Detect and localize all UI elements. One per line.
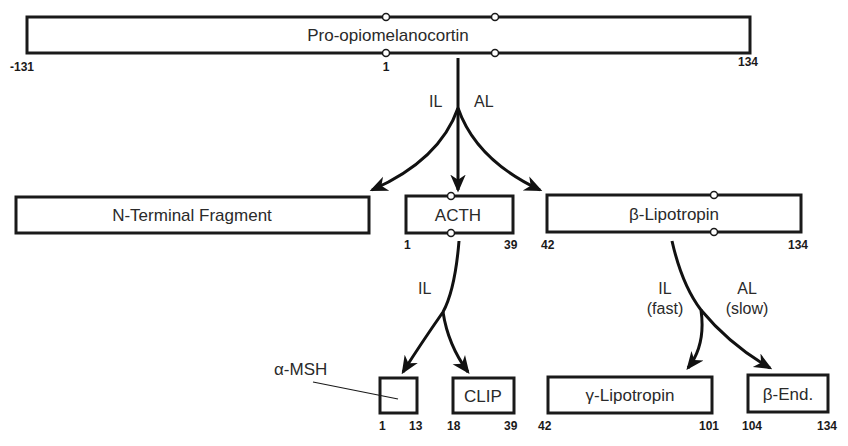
cleavage-site-marker (383, 14, 390, 21)
pomc-label: Pro-opiomelanocortin (307, 26, 469, 45)
arrow-to-beta-endorphin (701, 310, 770, 368)
n-terminal-label: N-Terminal Fragment (112, 206, 272, 225)
lpt-il-label: IL (658, 280, 671, 297)
alpha-msh: α-MSH 1 13 (274, 360, 423, 433)
acth-start-number: 1 (404, 238, 411, 252)
clip-label: CLIP (464, 387, 502, 406)
cleavage-site-marker (711, 192, 718, 199)
arrow-to-n-terminal (372, 108, 458, 190)
pomc-start-number: -131 (10, 60, 34, 74)
clip-end-number: 39 (504, 419, 518, 433)
lpt-slow-label: (slow) (726, 300, 769, 317)
beta-endorphin-label: β-End. (763, 385, 813, 404)
cleavage-site-marker (492, 14, 499, 21)
acth-end-number: 39 (504, 238, 518, 252)
cleavage-site-marker (448, 193, 455, 200)
beta-lipotropin-start-number: 42 (541, 238, 555, 252)
precursor-pomc: Pro-opiomelanocortin -131 1 134 (10, 14, 758, 75)
cleavage-site-marker (492, 50, 499, 57)
level1-arrows: IL AL (372, 58, 540, 190)
cleavage-site-marker (711, 229, 718, 236)
alpha-msh-start-number: 1 (379, 419, 386, 433)
alpha-msh-label: α-MSH (274, 360, 327, 379)
arrow-to-alpha-msh (403, 241, 459, 372)
beta-lipotropin: β-Lipotropin 42 134 (541, 192, 808, 253)
beta-lipotropin-label: β-Lipotropin (629, 205, 719, 224)
pomc-end-number: 134 (738, 55, 758, 69)
gamma-lipotropin: γ-Lipotropin 42 101 (538, 377, 719, 433)
acth-branch: IL (403, 241, 468, 372)
lpt-fast-label: (fast) (647, 300, 683, 317)
beta-lipotropin-branch: IL (fast) AL (slow) (647, 241, 770, 368)
beta-endorphin: β-End. 104 134 (742, 375, 837, 433)
clip: CLIP 18 39 (447, 378, 518, 433)
cleavage-site-marker (448, 230, 455, 237)
acth-il-label: IL (418, 280, 431, 297)
gamma-lipotropin-label: γ-Lipotropin (586, 386, 675, 405)
arrow-to-clip (443, 312, 468, 372)
pomc-diagram: Pro-opiomelanocortin -131 1 134 IL AL N-… (0, 0, 848, 446)
lpt-al-label: AL (737, 280, 757, 297)
gamma-lipotropin-end-number: 101 (699, 419, 719, 433)
arrow-to-beta-lipotropin (458, 108, 540, 190)
cleavage-site-marker (383, 50, 390, 57)
beta-endorphin-end-number: 134 (817, 419, 837, 433)
clip-start-number: 18 (447, 419, 461, 433)
gamma-lipotropin-start-number: 42 (538, 419, 552, 433)
acth: ACTH 1 39 (404, 193, 518, 253)
alpha-msh-box (380, 378, 417, 413)
alpha-msh-end-number: 13 (409, 419, 423, 433)
il-label: IL (429, 93, 442, 110)
pomc-mid-number: 1 (383, 60, 390, 74)
n-terminal-fragment: N-Terminal Fragment (16, 197, 369, 233)
beta-lipotropin-end-number: 134 (788, 238, 808, 252)
beta-endorphin-start-number: 104 (742, 419, 762, 433)
acth-label: ACTH (435, 206, 481, 225)
al-label: AL (474, 93, 494, 110)
